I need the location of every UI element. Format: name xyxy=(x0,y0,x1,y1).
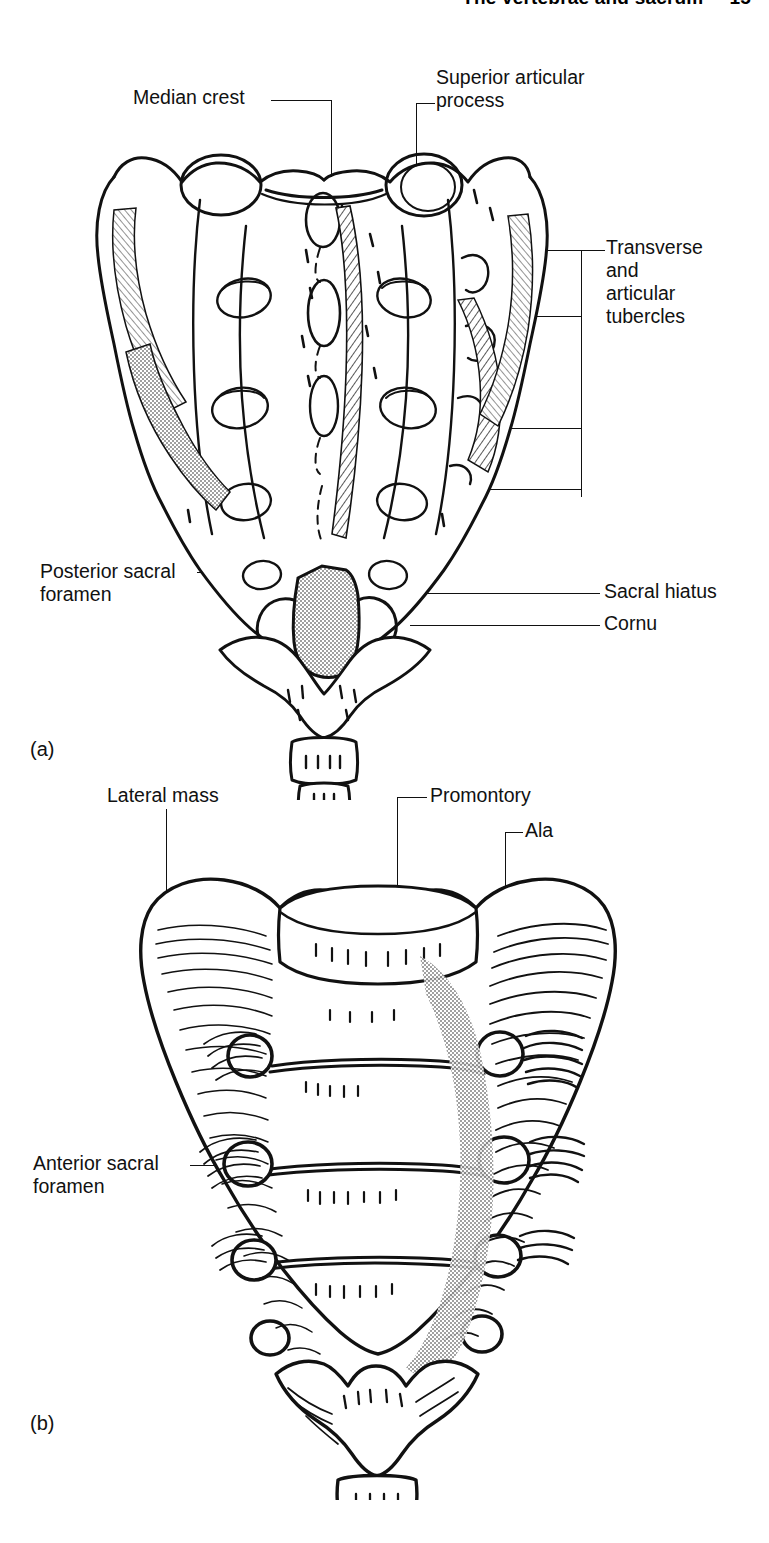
leader-promontory-h xyxy=(397,797,427,798)
label-transverse-tubercles-line4: tubercles xyxy=(606,305,685,328)
label-superior-articular-process-line1: Superior articular xyxy=(436,66,584,89)
figure-b-anterior-sacrum xyxy=(120,860,650,1500)
label-anterior-sacral-foramen-line2: foramen xyxy=(33,1175,105,1198)
label-transverse-tubercles-line3: articular xyxy=(606,282,675,305)
label-ala: Ala xyxy=(525,819,553,842)
panel-label-b: (b) xyxy=(30,1412,54,1435)
running-head: The vertebrae and sacrum15 xyxy=(0,0,769,14)
leader-ala-h xyxy=(505,832,523,833)
running-head-title: The vertebrae and sacrum xyxy=(462,0,703,8)
figure-a-posterior-sacrum xyxy=(70,130,570,800)
leader-transverse-bracket-spine xyxy=(581,250,582,497)
panel-label-a: (a) xyxy=(30,738,54,761)
label-promontory: Promontory xyxy=(430,784,531,807)
running-head-page-number: 15 xyxy=(729,0,751,8)
leader-median-crest-h xyxy=(271,100,332,101)
label-cornu: Cornu xyxy=(604,612,657,635)
label-transverse-tubercles-line2: and xyxy=(606,259,639,282)
label-lateral-mass: Lateral mass xyxy=(107,784,219,807)
leader-superior-articular-h xyxy=(416,103,435,104)
label-transverse-tubercles-line1: Transverse xyxy=(606,236,703,259)
label-superior-articular-process-line2: process xyxy=(436,89,504,112)
label-sacral-hiatus: Sacral hiatus xyxy=(604,580,717,603)
label-median-crest: Median crest xyxy=(133,86,245,109)
leader-transverse-tick-1 xyxy=(581,250,605,251)
